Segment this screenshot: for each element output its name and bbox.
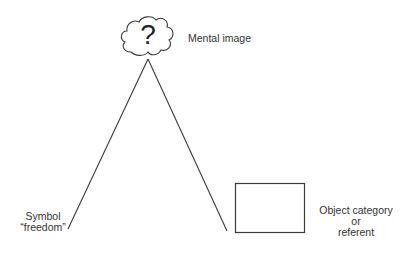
referent-box	[236, 184, 305, 233]
mental-image-label: Mental image	[188, 33, 251, 44]
mental-image-text: Mental image	[188, 32, 251, 44]
referent-label: Object category or referent	[312, 205, 400, 238]
question-mark-icon: ?	[137, 18, 159, 52]
edge-mental-to-symbol	[68, 59, 148, 229]
symbol-label-line2: “freedom”	[18, 222, 68, 233]
referent-label-line3: referent	[312, 227, 400, 238]
symbol-label: Symbol “freedom”	[18, 211, 68, 233]
edge-mental-to-referent	[148, 59, 227, 231]
